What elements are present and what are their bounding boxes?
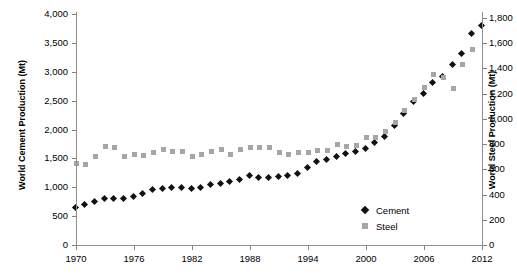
data-point-steel <box>132 152 137 157</box>
y-right-tick <box>483 43 487 44</box>
y-left-tick <box>72 14 76 15</box>
data-point-cement <box>149 186 156 193</box>
data-point-cement <box>187 185 194 192</box>
data-point-steel <box>441 75 446 80</box>
data-point-cement <box>477 22 484 29</box>
y-right-tick-label: 1,200 <box>489 88 517 99</box>
data-point-steel <box>393 120 398 125</box>
data-point-steel <box>93 154 98 159</box>
data-point-cement <box>197 184 204 191</box>
y-left-tick <box>72 72 76 73</box>
y-left-tick <box>72 158 76 159</box>
data-point-cement <box>332 153 339 160</box>
x-tick <box>250 246 251 250</box>
data-point-steel <box>364 135 369 140</box>
y-right-tick <box>483 220 487 221</box>
data-point-cement <box>381 133 388 140</box>
data-point-cement <box>245 172 252 179</box>
data-point-steel <box>286 152 291 157</box>
data-point-steel <box>267 145 272 150</box>
data-point-cement <box>371 139 378 146</box>
data-point-cement <box>100 195 107 202</box>
data-point-steel <box>306 150 311 155</box>
data-point-steel <box>112 145 117 150</box>
data-point-steel <box>122 154 127 159</box>
data-point-cement <box>361 145 368 152</box>
x-tick-label: 1970 <box>54 253 98 264</box>
y-right-tick-label: 1,400 <box>489 62 517 73</box>
x-tick <box>308 246 309 250</box>
y-axis-right-title: World Steel Production (Mt) <box>487 50 497 210</box>
y-left-tick-label: 1,500 <box>24 152 68 163</box>
data-point-cement <box>168 184 175 191</box>
data-point-cement <box>255 174 262 181</box>
y-axis-left-line <box>76 12 77 246</box>
data-point-steel <box>344 144 349 149</box>
data-point-cement <box>226 178 233 185</box>
data-point-cement <box>265 173 272 180</box>
data-point-cement <box>458 50 465 57</box>
y-left-tick <box>72 43 76 44</box>
data-point-cement <box>216 180 223 187</box>
y-right-tick <box>483 195 487 196</box>
y-left-tick <box>72 101 76 102</box>
data-point-steel <box>431 72 436 77</box>
data-point-cement <box>236 176 243 183</box>
y-right-tick <box>483 94 487 95</box>
y-right-tick-label: 600 <box>489 163 517 174</box>
data-point-cement <box>71 203 78 210</box>
legend-square-icon <box>362 223 368 229</box>
y-left-tick-label: 2,500 <box>24 95 68 106</box>
data-point-steel <box>151 150 156 155</box>
data-point-cement <box>139 190 146 197</box>
data-point-cement <box>284 172 291 179</box>
data-point-cement <box>352 147 359 154</box>
x-tick-label: 1976 <box>112 253 156 264</box>
y-right-tick-label: 1,800 <box>489 12 517 23</box>
y-right-tick-label: 200 <box>489 214 517 225</box>
data-point-steel <box>277 150 282 155</box>
y-left-tick-label: 0 <box>24 239 68 250</box>
x-tick-label: 1982 <box>170 253 214 264</box>
y-left-tick-label: 4,000 <box>24 8 68 19</box>
y-right-tick-label: 1,600 <box>489 37 517 48</box>
data-point-cement <box>303 164 310 171</box>
data-point-steel <box>180 149 185 154</box>
data-point-cement <box>468 30 475 37</box>
legend-diamond-icon <box>361 206 369 214</box>
data-point-steel <box>161 147 166 152</box>
data-point-steel <box>335 142 340 147</box>
y-right-tick-label: 1,000 <box>489 113 517 124</box>
x-tick <box>482 246 483 250</box>
y-left-tick-label: 3,500 <box>24 37 68 48</box>
data-point-steel <box>460 62 465 67</box>
data-point-steel <box>219 147 224 152</box>
data-point-steel <box>103 144 108 149</box>
x-tick-label: 2000 <box>344 253 388 264</box>
data-point-steel <box>190 154 195 159</box>
data-point-steel <box>248 145 253 150</box>
x-tick-label: 1994 <box>286 253 330 264</box>
data-point-cement <box>294 170 301 177</box>
x-tick <box>424 246 425 250</box>
y-left-tick <box>72 187 76 188</box>
y-right-tick <box>483 18 487 19</box>
data-point-cement <box>274 173 281 180</box>
x-tick-label: 2012 <box>460 253 504 264</box>
y-right-tick-label: 400 <box>489 189 517 200</box>
data-point-steel <box>199 152 204 157</box>
x-tick <box>192 246 193 250</box>
data-point-cement <box>323 156 330 163</box>
y-left-tick-label: 500 <box>24 210 68 221</box>
y-axis-right-line <box>482 12 483 246</box>
data-point-steel <box>373 135 378 140</box>
data-point-steel <box>422 85 427 90</box>
y-right-tick <box>483 119 487 120</box>
data-point-cement <box>178 184 185 191</box>
y-right-tick-label: 800 <box>489 138 517 149</box>
y-left-tick-label: 2,000 <box>24 124 68 135</box>
y-left-tick <box>72 216 76 217</box>
data-point-steel <box>257 145 262 150</box>
x-tick-label: 2006 <box>402 253 446 264</box>
